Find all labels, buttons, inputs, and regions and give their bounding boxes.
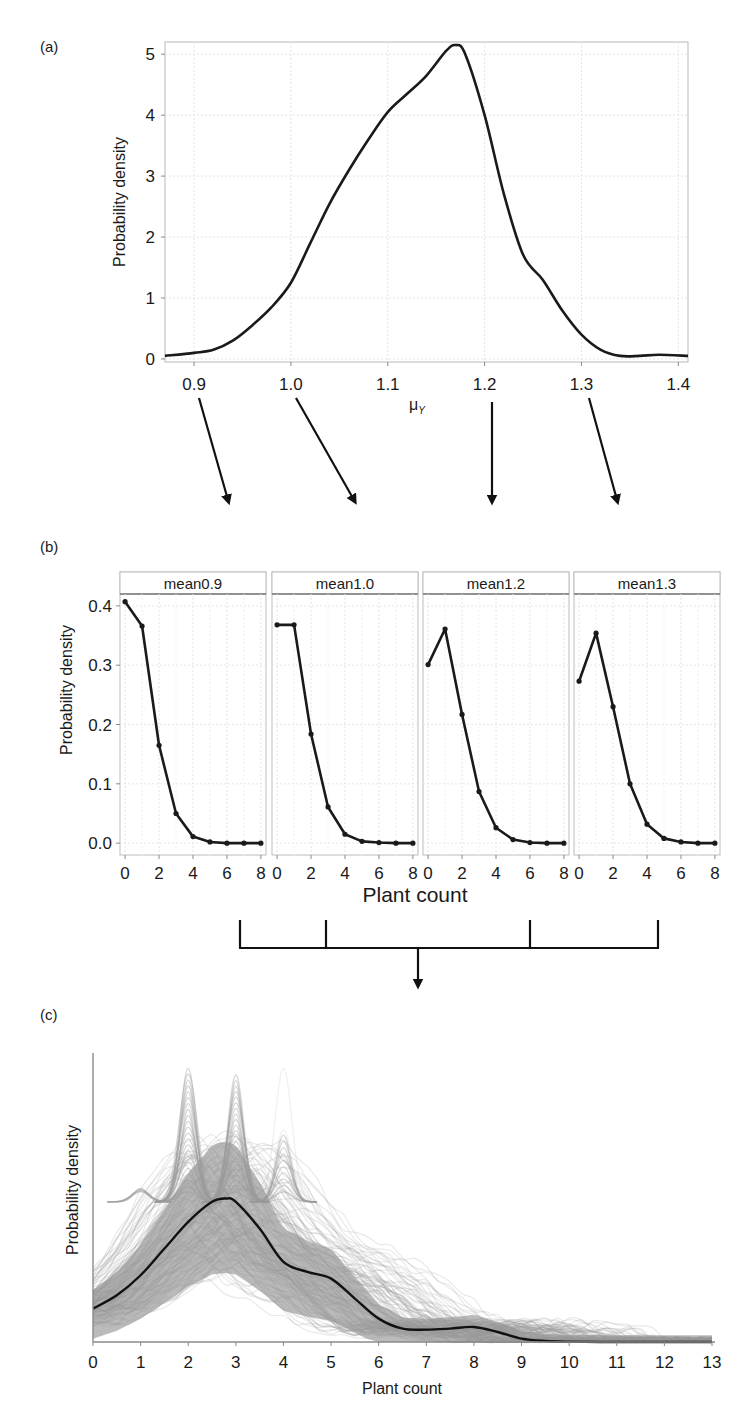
x-tick-label: 11	[608, 1353, 626, 1372]
x-tick-label: 1.3	[570, 375, 594, 394]
data-point	[308, 731, 313, 736]
arrow-down-icon	[589, 398, 617, 500]
data-point	[493, 825, 498, 830]
data-point	[207, 839, 212, 844]
x-tick-label: 4	[279, 1353, 288, 1372]
x-tick-label: 0	[423, 864, 432, 883]
facet-strip-label: mean0.9	[164, 575, 222, 592]
x-tick-label: 4	[340, 864, 349, 883]
y-axis-title-c: Probability density	[64, 1125, 81, 1255]
x-tick-label: 10	[560, 1353, 579, 1372]
data-point	[425, 662, 430, 667]
x-tick-label: 1.2	[473, 375, 497, 394]
data-point	[393, 841, 398, 846]
data-point	[712, 841, 717, 846]
data-point	[139, 623, 144, 628]
x-tick-label: 2	[183, 1353, 192, 1372]
data-point	[527, 840, 532, 845]
data-point	[325, 804, 330, 809]
data-point	[678, 839, 683, 844]
data-point	[122, 599, 127, 604]
x-tick-label: 8	[408, 864, 417, 883]
y-tick-label: 0.2	[88, 716, 112, 735]
x-tick-label: 8	[710, 864, 719, 883]
x-tick-label: 13	[703, 1353, 722, 1372]
data-point	[190, 834, 195, 839]
x-tick-label: 3	[231, 1353, 240, 1372]
x-tick-label: 0	[120, 864, 129, 883]
data-point	[359, 839, 364, 844]
x-tick-label: 1.1	[376, 375, 400, 394]
x-tick-label: 0	[272, 864, 281, 883]
y-tick-label: 0	[146, 350, 155, 369]
data-point	[610, 704, 615, 709]
y-axis-ticks-a: 012345	[146, 45, 165, 369]
panel-c-predictive-chart: (c) 012345678910111213 Probability densi…	[40, 1006, 721, 1397]
x-tick-label: 9	[517, 1353, 526, 1372]
plot-area-a	[165, 42, 688, 362]
facet-strip-label: mean1.2	[467, 575, 525, 592]
data-point	[544, 841, 549, 846]
x-tick-label: 8	[469, 1353, 478, 1372]
arrow-down-icon	[296, 398, 354, 500]
data-point	[156, 743, 161, 748]
panel-b-faceted-chart: (b) mean0.902468mean1.002468mean1.202468…	[40, 538, 720, 906]
panel-a-density-chart: (a) 012345 0.91.01.11.21.31.4 Probabilit…	[40, 38, 690, 416]
data-point	[459, 712, 464, 717]
x-tick-label: 2	[154, 864, 163, 883]
y-tick-label: 1	[146, 289, 155, 308]
facets-b: mean0.902468mean1.002468mean1.202468mean…	[120, 572, 720, 883]
x-tick-label: 1.0	[279, 375, 303, 394]
x-tick-label: 0	[574, 864, 583, 883]
data-point	[342, 832, 347, 837]
data-point	[241, 841, 246, 846]
bracket-b-to-c	[239, 920, 659, 984]
data-point	[442, 626, 447, 631]
x-tick-label: 8	[256, 864, 265, 883]
panel-label-b: (b)	[40, 538, 58, 555]
y-tick-label: 0.3	[88, 656, 112, 675]
data-point	[274, 622, 279, 627]
x-axis-ticks-a: 0.91.01.11.21.31.4	[182, 362, 690, 394]
x-tick-label: 5	[326, 1353, 335, 1372]
x-tick-label: 6	[525, 864, 534, 883]
arrows-a-to-b	[199, 398, 617, 500]
y-axis-title-a: Probability density	[111, 137, 128, 267]
facet-mean1.2: mean1.202468	[423, 572, 569, 883]
y-tick-label: 0.1	[88, 775, 112, 794]
facet-mean1.3: mean1.302468	[574, 572, 720, 883]
x-axis-title-c: Plant count	[362, 1380, 443, 1397]
x-tick-label: 12	[655, 1353, 674, 1372]
data-point	[376, 840, 381, 845]
data-point	[561, 841, 566, 846]
y-axis-ticks-b: 0.00.10.20.30.4	[88, 597, 120, 853]
data-point	[593, 631, 598, 636]
y-tick-label: 2	[146, 228, 155, 247]
y-axis-title-b: Probability density	[58, 625, 75, 755]
x-axis-title-b: Plant count	[362, 883, 467, 906]
data-point	[224, 841, 229, 846]
panel-label-a: (a)	[40, 38, 58, 55]
data-point	[644, 822, 649, 827]
data-point	[476, 789, 481, 794]
data-point	[510, 837, 515, 842]
x-axis-title-a: μY	[409, 396, 426, 416]
x-tick-label: 8	[559, 864, 568, 883]
y-tick-label: 3	[146, 167, 155, 186]
facet-mean0.9: mean0.902468	[120, 572, 266, 883]
x-tick-label: 0	[88, 1353, 97, 1372]
x-tick-label: 4	[188, 864, 197, 883]
facet-mean1.0: mean1.002468	[272, 572, 418, 883]
x-axis-ticks-c: 012345678910111213	[88, 1342, 721, 1372]
y-tick-label: 4	[146, 106, 155, 125]
x-tick-label: 7	[422, 1353, 431, 1372]
x-tick-label: 6	[374, 864, 383, 883]
data-point	[576, 679, 581, 684]
arrow-down-icon	[199, 398, 228, 500]
panel-label-c: (c)	[40, 1006, 58, 1023]
y-tick-label: 5	[146, 45, 155, 64]
x-tick-label: 4	[491, 864, 500, 883]
x-tick-label: 6	[374, 1353, 383, 1372]
data-point	[410, 841, 415, 846]
x-tick-label: 2	[306, 864, 315, 883]
